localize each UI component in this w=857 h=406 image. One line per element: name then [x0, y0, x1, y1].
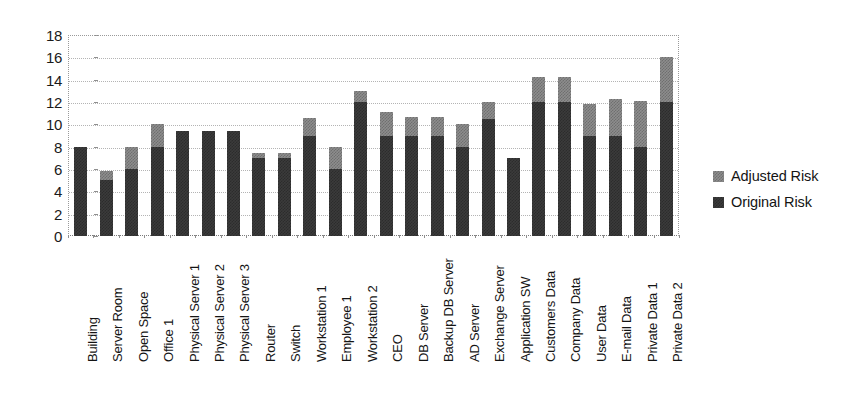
bar-segment-adjusted-risk	[609, 99, 622, 136]
x-tick-mark	[679, 235, 680, 238]
bar-segment-adjusted-risk	[329, 147, 342, 169]
bar-group[interactable]	[202, 35, 215, 236]
x-axis: BuildingServer RoomOpen SpaceOffice 1Phy…	[68, 238, 679, 368]
chart-legend: Adjusted RiskOriginal Risk	[713, 163, 843, 215]
bar-segment-adjusted-risk	[482, 102, 495, 119]
bar-segment-original-risk	[202, 131, 215, 236]
x-tick-mark	[297, 235, 298, 238]
bar-segment-adjusted-risk	[405, 117, 418, 136]
x-tick-mark	[526, 235, 527, 238]
bar-segment-adjusted-risk	[660, 57, 673, 102]
bar-group[interactable]	[125, 35, 138, 236]
x-tick-mark	[93, 235, 94, 238]
bar-segment-original-risk	[405, 136, 418, 237]
y-tick-label: 2	[54, 207, 62, 222]
x-tick-label: Application SW	[519, 277, 532, 362]
bar-group[interactable]	[583, 35, 596, 236]
x-tick-label: Physical Server 2	[213, 264, 226, 362]
x-tick-label: Switch	[289, 325, 302, 362]
bar-segment-original-risk	[609, 136, 622, 237]
y-tick-label: 14	[46, 73, 62, 88]
bar-group[interactable]	[252, 35, 265, 236]
bar-group[interactable]	[354, 35, 367, 236]
legend-item[interactable]: Adjusted Risk	[713, 163, 843, 189]
bar-segment-adjusted-risk	[431, 117, 444, 136]
x-tick-label: Physical Server 1	[188, 264, 201, 362]
bar-segment-adjusted-risk	[583, 104, 596, 135]
x-tick-mark	[501, 235, 502, 238]
bar-segment-adjusted-risk	[252, 153, 265, 157]
x-tick-mark	[603, 235, 604, 238]
x-tick-mark	[450, 235, 451, 238]
bar-segment-original-risk	[532, 102, 545, 236]
bar-group[interactable]	[100, 35, 113, 236]
x-tick-label: AD Server	[468, 304, 481, 362]
bar-group[interactable]	[227, 35, 240, 236]
bar-segment-original-risk	[151, 147, 164, 236]
bar-segment-adjusted-risk	[303, 118, 316, 136]
bar-segment-original-risk	[176, 131, 189, 236]
bar-segment-adjusted-risk	[558, 77, 571, 102]
bar-group[interactable]	[278, 35, 291, 236]
x-tick-mark	[552, 235, 553, 238]
bar-group[interactable]	[74, 35, 87, 236]
x-tick-label: Building	[86, 317, 99, 362]
bar-group[interactable]	[329, 35, 342, 236]
bar-group[interactable]	[405, 35, 418, 236]
x-tick-mark	[272, 235, 273, 238]
legend-item[interactable]: Original Risk	[713, 189, 843, 215]
y-tick-label: 4	[54, 184, 62, 199]
bar-group[interactable]	[482, 35, 495, 236]
bar-segment-original-risk	[634, 147, 647, 236]
legend-label: Adjusted Risk	[731, 169, 818, 184]
x-tick-label: Router	[264, 324, 277, 362]
bar-segment-original-risk	[227, 131, 240, 236]
x-tick-label: Workstation 2	[366, 285, 379, 362]
y-tick-label: 16	[46, 50, 62, 65]
x-tick-label: User Data	[595, 305, 608, 362]
x-tick-label: Server Room	[111, 288, 124, 362]
risk-bar-chart: 181614121086420 BuildingServer RoomOpen …	[0, 0, 857, 406]
bar-group[interactable]	[380, 35, 393, 236]
bar-group[interactable]	[558, 35, 571, 236]
x-tick-mark	[348, 235, 349, 238]
legend-swatch-adjusted	[713, 171, 724, 182]
bar-group[interactable]	[176, 35, 189, 236]
bar-group[interactable]	[303, 35, 316, 236]
x-tick-mark	[119, 235, 120, 238]
bar-segment-original-risk	[354, 102, 367, 236]
x-tick-label: Backup DB Server	[442, 258, 455, 362]
bar-group[interactable]	[507, 35, 520, 236]
y-tick-label: 18	[46, 28, 62, 43]
bar-segment-adjusted-risk	[125, 147, 138, 169]
bar-group[interactable]	[634, 35, 647, 236]
bar-group[interactable]	[431, 35, 444, 236]
x-tick-label: Company Data	[569, 278, 582, 362]
x-tick-label: Employee 1	[340, 295, 353, 362]
bar-segment-adjusted-risk	[100, 171, 113, 180]
bar-segment-original-risk	[583, 136, 596, 237]
x-tick-label: Open Space	[137, 292, 150, 362]
x-tick-mark	[399, 235, 400, 238]
bar-segment-original-risk	[558, 102, 571, 236]
bar-group[interactable]	[151, 35, 164, 236]
bar-group[interactable]	[609, 35, 622, 236]
x-tick-mark	[628, 235, 629, 238]
bar-segment-adjusted-risk	[354, 91, 367, 102]
x-tick-mark	[170, 235, 171, 238]
bar-segment-original-risk	[431, 136, 444, 237]
y-tick-mark	[94, 236, 98, 237]
x-tick-label: Workstation 1	[315, 285, 328, 362]
bar-group[interactable]	[660, 35, 673, 236]
bar-segment-adjusted-risk	[278, 153, 291, 157]
bar-group[interactable]	[456, 35, 469, 236]
bar-segment-adjusted-risk	[532, 77, 545, 102]
bar-segment-original-risk	[380, 136, 393, 237]
y-axis: 181614121086420	[28, 26, 62, 245]
x-tick-mark	[221, 235, 222, 238]
y-tick-label: 0	[54, 229, 62, 244]
bar-segment-original-risk	[252, 158, 265, 236]
y-tick-label: 10	[46, 117, 62, 132]
bar-group[interactable]	[532, 35, 545, 236]
bar-segment-adjusted-risk	[380, 112, 393, 135]
